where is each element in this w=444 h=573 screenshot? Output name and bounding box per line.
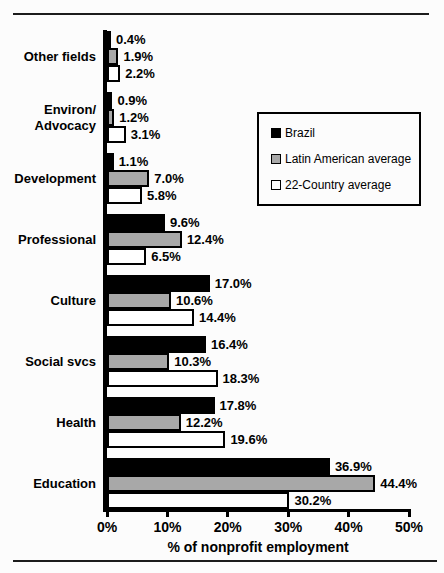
bar [107, 370, 218, 387]
legend-label: Latin American average [285, 152, 411, 166]
category-label: Culture [0, 293, 103, 308]
x-tick-label: 50% [395, 519, 423, 535]
category-label: Other fields [0, 49, 103, 64]
bar [107, 414, 181, 431]
legend-swatch-icon [271, 154, 281, 164]
category-label: Professional [0, 232, 103, 247]
legend-item: Latin American average [271, 152, 419, 166]
bar-value-label: 18.3% [223, 371, 260, 386]
legend-label: Brazil [285, 126, 315, 140]
legend: BrazilLatin American average22-Country a… [257, 112, 421, 206]
bar-value-label: 44.4% [380, 476, 417, 491]
bar-value-label: 16.4% [211, 337, 248, 352]
bar-row: 36.9% [107, 458, 417, 475]
bar-group: Social svcs16.4%10.3%18.3% [0, 336, 444, 387]
bar-row: 0.9% [107, 92, 160, 109]
bar [107, 248, 146, 265]
bar-chart: Other fields0.4%1.9%2.2%Environ/ Advocac… [0, 0, 444, 573]
bar [107, 475, 375, 492]
bar [107, 458, 330, 475]
bar-value-label: 19.6% [230, 432, 267, 447]
bar [107, 431, 225, 448]
bar [107, 292, 171, 309]
bar [107, 126, 126, 143]
bar-value-label: 0.4% [116, 32, 146, 47]
bar-stack: 17.0%10.6%14.4% [103, 275, 252, 326]
bar-stack: 0.9%1.2%3.1% [103, 92, 160, 143]
x-tick-label: 30% [274, 519, 302, 535]
x-tick [166, 512, 169, 517]
bar-value-label: 1.2% [119, 110, 149, 125]
bar-value-label: 10.6% [176, 293, 213, 308]
bar-stack: 16.4%10.3%18.3% [103, 336, 259, 387]
legend-item: Brazil [271, 126, 419, 140]
bar-value-label: 3.1% [131, 127, 161, 142]
bar [107, 187, 142, 204]
bar-value-label: 30.2% [294, 493, 331, 508]
x-tick-label: 0% [97, 519, 117, 535]
bar-value-label: 1.1% [119, 154, 149, 169]
bar-value-label: 5.8% [147, 188, 177, 203]
bar-row: 2.2% [107, 65, 155, 82]
x-tick [408, 512, 411, 517]
bar [107, 492, 289, 509]
bar [107, 48, 118, 65]
bar-row: 1.2% [107, 109, 160, 126]
bar-row: 0.4% [107, 31, 155, 48]
bar [107, 214, 165, 231]
bar-row: 14.4% [107, 309, 252, 326]
bar-row: 18.3% [107, 370, 259, 387]
y-axis [103, 30, 107, 512]
x-axis [103, 509, 411, 512]
bar-row: 12.2% [107, 414, 267, 431]
bar-row: 1.9% [107, 48, 155, 65]
bar-row: 6.5% [107, 248, 224, 265]
bar [107, 397, 215, 414]
bottom-rule [13, 560, 437, 562]
bar-stack: 9.6%12.4%6.5% [103, 214, 224, 265]
bar-value-label: 10.3% [174, 354, 211, 369]
legend-label: 22-Country average [285, 178, 391, 192]
bar-row: 19.6% [107, 431, 267, 448]
bar-value-label: 7.0% [154, 171, 184, 186]
bar-row: 17.0% [107, 275, 252, 292]
x-tick [226, 512, 229, 517]
bar-stack: 0.4%1.9%2.2% [103, 31, 155, 82]
bar-value-label: 12.2% [186, 415, 223, 430]
bar-row: 9.6% [107, 214, 224, 231]
bar-value-label: 14.4% [199, 310, 236, 325]
page: Other fields0.4%1.9%2.2%Environ/ Advocac… [0, 0, 444, 573]
bar-row: 3.1% [107, 126, 160, 143]
bar-row: 10.6% [107, 292, 252, 309]
bar [107, 336, 206, 353]
category-label: Development [0, 171, 103, 186]
bar-value-label: 9.6% [170, 215, 200, 230]
bar-stack: 1.1%7.0%5.8% [103, 153, 184, 204]
x-tick [347, 512, 350, 517]
bar-groups: Other fields0.4%1.9%2.2%Environ/ Advocac… [0, 31, 444, 519]
bar-row: 17.8% [107, 397, 267, 414]
bar-value-label: 17.0% [215, 276, 252, 291]
x-tick-label: 40% [335, 519, 363, 535]
bar-group: Other fields0.4%1.9%2.2% [0, 31, 444, 82]
bar [107, 170, 149, 187]
bar-row: 16.4% [107, 336, 259, 353]
bar-row: 12.4% [107, 231, 224, 248]
bar [107, 65, 120, 82]
x-tick [106, 512, 109, 517]
bar-row: 44.4% [107, 475, 417, 492]
bar-group: Education36.9%44.4%30.2% [0, 458, 444, 509]
bar [107, 92, 112, 109]
bar [107, 153, 114, 170]
bar-row: 5.8% [107, 187, 184, 204]
bar-value-label: 2.2% [125, 66, 155, 81]
x-tick-label: 10% [153, 519, 181, 535]
legend-swatch-icon [271, 180, 281, 190]
x-axis-label: % of nonprofit employment [167, 539, 348, 555]
bar-group: Professional9.6%12.4%6.5% [0, 214, 444, 265]
legend-item: 22-Country average [271, 178, 419, 192]
bar [107, 231, 182, 248]
category-label: Education [0, 476, 103, 491]
bar-stack: 17.8%12.2%19.6% [103, 397, 267, 448]
category-label: Environ/ Advocacy [0, 102, 103, 133]
